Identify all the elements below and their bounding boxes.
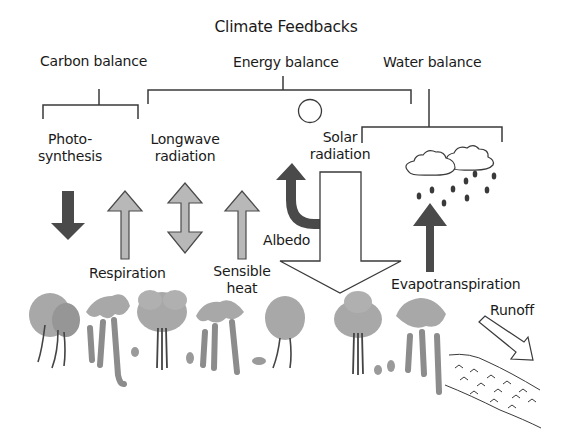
longwave-label-line2: radiation xyxy=(141,148,229,165)
energy-bracket xyxy=(148,76,411,104)
tree-icon xyxy=(396,298,446,392)
evapotranspiration-label: Evapotranspiration xyxy=(391,276,520,293)
shrub-icon xyxy=(374,365,382,375)
albedo-label: Albedo xyxy=(263,232,310,249)
tree-icon xyxy=(86,294,130,384)
water-balance-label: Water balance xyxy=(383,54,481,71)
tree-icon xyxy=(196,300,244,372)
photosynthesis-label-line1: Photo- xyxy=(30,131,110,148)
climate-feedbacks-diagram: Climate Feedbacks Carbon balance Energy … xyxy=(0,0,573,440)
water-body-icon xyxy=(445,354,541,428)
solar-radiation-label: Solar radiation xyxy=(300,129,380,163)
tree-icon xyxy=(265,296,305,368)
sun-icon xyxy=(299,100,322,123)
sensible-heat-arrow-icon xyxy=(225,191,259,259)
tree-icon xyxy=(29,293,80,368)
energy-balance-label: Energy balance xyxy=(233,54,339,71)
photosynthesis-arrow-icon xyxy=(51,191,85,240)
shrub-icon xyxy=(387,360,395,372)
carbon-balance-label: Carbon balance xyxy=(40,53,147,70)
photosynthesis-label: Photo- synthesis xyxy=(30,131,110,165)
photosynthesis-label-line2: synthesis xyxy=(30,148,110,165)
diagram-title: Climate Feedbacks xyxy=(196,19,376,36)
longwave-radiation-arrow-icon xyxy=(168,183,202,253)
sensible-label-line1: Sensible xyxy=(209,263,275,280)
runoff-label: Runoff xyxy=(490,302,534,319)
runoff-arrow-icon xyxy=(479,316,533,360)
shrub-icon xyxy=(186,352,194,364)
evapotranspiration-arrow-icon xyxy=(413,203,447,272)
sensible-heat-label: Sensible heat xyxy=(209,263,275,297)
shrub-icon xyxy=(252,357,266,365)
water-bracket xyxy=(362,89,502,143)
longwave-radiation-label: Longwave radiation xyxy=(141,131,229,165)
tree-icon xyxy=(334,291,382,375)
longwave-label-line1: Longwave xyxy=(141,131,229,148)
solar-label-line1: Solar xyxy=(300,129,380,146)
respiration-label: Respiration xyxy=(89,265,166,282)
rain-cloud-icon xyxy=(406,146,493,175)
tree-icon xyxy=(137,290,187,370)
forest-illustration xyxy=(29,290,446,392)
respiration-arrow-icon xyxy=(108,191,142,259)
carbon-bracket xyxy=(43,89,138,119)
solar-label-line2: radiation xyxy=(300,146,380,163)
sensible-label-line2: heat xyxy=(209,280,275,297)
raindrops-icon xyxy=(417,171,497,207)
shrub-icon xyxy=(131,347,139,357)
